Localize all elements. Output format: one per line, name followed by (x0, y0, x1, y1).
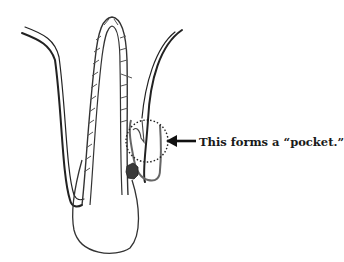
left-tissue-line (22, 27, 84, 206)
hair-shaft (82, 17, 132, 205)
inner-fold (133, 120, 144, 142)
pocket-annotation: This forms a “pocket.” (199, 135, 344, 149)
right-tissue-line (142, 30, 182, 182)
dark-deposit (126, 163, 138, 179)
arrow-icon (166, 135, 196, 147)
